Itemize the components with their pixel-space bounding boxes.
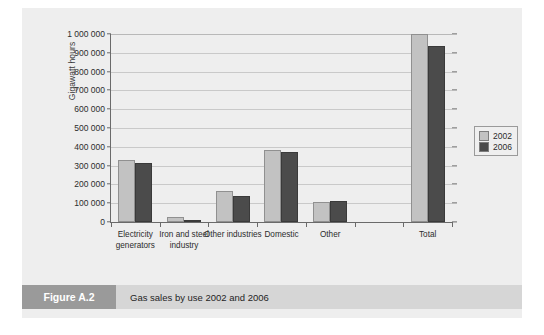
y-axis-tick-label: 900 000	[74, 48, 105, 58]
x-axis-category-label: Total	[396, 230, 460, 241]
bar-2006	[135, 163, 152, 222]
figure-caption-text: Gas sales by use 2002 and 2006	[116, 285, 522, 309]
y-axis-tick-label: 400 000	[74, 142, 105, 152]
y-axis-tick-mark-right	[452, 90, 457, 91]
bar-group	[208, 34, 257, 222]
y-axis-tick-mark-right	[452, 184, 457, 185]
y-axis-tick-label: 800 000	[74, 67, 105, 77]
y-axis-tick-label: 1 000 000	[67, 29, 105, 39]
bar-2006	[330, 201, 347, 222]
x-axis-tick-mark	[355, 222, 356, 227]
legend-swatch-icon	[479, 142, 489, 152]
y-axis-tick-mark-right	[452, 109, 457, 110]
legend-item-2002: 2002	[479, 130, 512, 141]
bar-2002	[313, 202, 330, 222]
figure-container: Gigawatt hours 0100 000200 000300 000400…	[22, 8, 522, 318]
figure-caption-bar: Figure A.2 Gas sales by use 2002 and 200…	[22, 285, 522, 309]
y-axis-tick-mark-right	[452, 203, 457, 204]
x-axis-tick-mark	[208, 222, 209, 227]
y-axis-tick-label: 500 000	[74, 123, 105, 133]
bar-2002	[118, 160, 135, 222]
bar-2006	[233, 196, 250, 222]
y-axis-tick-label: 300 000	[74, 161, 105, 171]
bar-group	[355, 34, 404, 222]
legend-swatch-icon	[479, 131, 489, 141]
y-axis-tick-label: 200 000	[74, 179, 105, 189]
x-axis-tick-mark	[160, 222, 161, 227]
bar-group	[403, 34, 452, 222]
bar-group	[306, 34, 355, 222]
bar-2002	[167, 217, 184, 222]
bar-group	[160, 34, 209, 222]
y-axis-tick-mark-right	[452, 52, 457, 53]
bar-2002	[411, 34, 428, 222]
x-axis-tick-mark	[452, 222, 453, 227]
y-axis-tick-mark-right	[452, 71, 457, 72]
y-axis-tick-mark-right	[452, 165, 457, 166]
y-axis-tick-mark-right	[452, 127, 457, 128]
x-axis-category-label: Other	[298, 230, 362, 241]
x-axis-tick-mark	[257, 222, 258, 227]
bar-group	[257, 34, 306, 222]
chart-panel: Gigawatt hours 0100 000200 000300 000400…	[22, 8, 522, 285]
bar-2002	[264, 150, 281, 222]
y-axis-tick-label: 100 000	[74, 198, 105, 208]
y-axis-tick-label: 600 000	[74, 104, 105, 114]
legend-label: 2002	[493, 131, 512, 141]
x-axis-tick-mark	[403, 222, 404, 227]
plot-area: 0100 000200 000300 000400 000500 000600 …	[110, 34, 452, 223]
legend-item-2006: 2006	[479, 141, 512, 152]
y-axis-tick-label: 700 000	[74, 85, 105, 95]
x-axis-tick-mark	[111, 222, 112, 227]
bar-2006	[184, 220, 201, 222]
x-axis-tick-mark	[306, 222, 307, 227]
figure-number-tag: Figure A.2	[22, 285, 116, 309]
y-axis-tick-mark-right	[452, 33, 457, 34]
y-axis-tick-mark-right	[452, 146, 457, 147]
chart-legend: 20022006	[474, 126, 518, 156]
bar-2006	[428, 46, 445, 222]
bar-2006	[281, 152, 298, 222]
bar-2002	[216, 191, 233, 222]
y-axis-tick-label: 0	[100, 217, 105, 227]
legend-label: 2006	[493, 142, 512, 152]
bar-group	[111, 34, 160, 222]
